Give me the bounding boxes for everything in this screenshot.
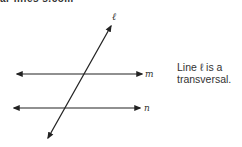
label-m: m [145,69,154,79]
label-l: ℓ [112,11,116,22]
label-n: n [144,103,150,113]
line-l-transversal [48,26,111,138]
caption: Line ℓ is a transversal. [177,61,231,85]
caption-line-2: transversal. [177,73,231,85]
caption-line-1: Line ℓ is a [177,61,231,73]
